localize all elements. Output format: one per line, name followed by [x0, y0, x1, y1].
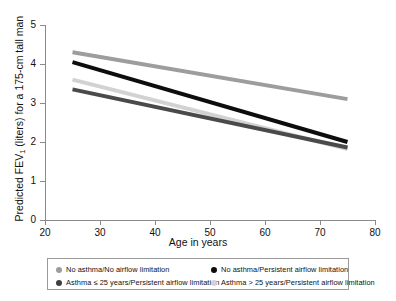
legend-marker-icon-asthma-le25: [56, 280, 62, 286]
legend-marker-icon-no-asthma-no-airflow: [56, 267, 62, 273]
plot-area: 0 1 2 3 4 5 20 30 40 50 60 70 80: [0, 0, 396, 250]
legend-item-no-asthma-persistent[interactable]: No asthma/Persistent airflow limitation: [211, 263, 348, 276]
plot-figure: Predicted FEV1 (liters) for a 175-cm tal…: [0, 0, 396, 250]
legend-label-no-asthma-persistent: No asthma/Persistent airflow limitation: [221, 263, 348, 276]
legend-marker-icon-asthma-gt25: [211, 280, 217, 286]
chart-legend: No asthma/No airflow limitation No asthm…: [47, 258, 349, 290]
legend-marker-icon-no-asthma-persistent: [211, 267, 217, 273]
legend-label-no-asthma-no-airflow: No asthma/No airflow limitation: [66, 263, 169, 276]
legend-item-asthma-le25[interactable]: Asthma ≤ 25 years/Persistent airflow lim…: [56, 276, 219, 289]
legend-item-no-asthma-no-airflow[interactable]: No asthma/No airflow limitation: [56, 263, 169, 276]
x-axis-title: Age in years: [0, 236, 396, 248]
legend-label-asthma-gt25: Asthma > 25 years/Persistent airflow lim…: [221, 276, 375, 289]
chart-figure: Predicted FEV1 (liters) for a 175-cm tal…: [0, 0, 396, 301]
legend-item-asthma-gt25[interactable]: Asthma > 25 years/Persistent airflow lim…: [211, 276, 375, 289]
series-line-3: [73, 89, 348, 147]
data-series-layer: [0, 0, 396, 250]
legend-label-asthma-le25: Asthma ≤ 25 years/Persistent airflow lim…: [66, 276, 219, 289]
